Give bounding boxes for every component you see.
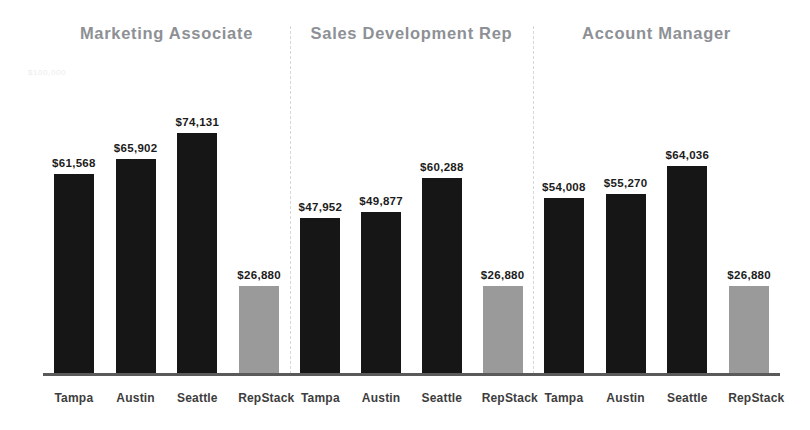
category-label: Seattle xyxy=(421,391,463,405)
bar-value-label: $26,880 xyxy=(237,269,281,281)
bar-value-label: $64,036 xyxy=(666,149,710,161)
bar-slot[interactable]: $47,952 xyxy=(299,60,341,374)
bar-rect[interactable] xyxy=(239,286,279,374)
bar-value-label: $47,952 xyxy=(299,201,343,213)
bar-slot[interactable]: $65,902 xyxy=(115,60,157,374)
bar-value-label: $55,270 xyxy=(604,177,648,189)
x-axis-categories: TampaAustinSeattleRepStack xyxy=(290,388,533,408)
bar-slot[interactable]: $26,880 xyxy=(482,60,524,374)
category-label: Tampa xyxy=(53,391,95,405)
bar-value-label: $26,880 xyxy=(481,269,525,281)
bar-slot[interactable]: $55,270 xyxy=(605,60,647,374)
bar-rect[interactable] xyxy=(483,286,523,374)
bar-rect[interactable] xyxy=(177,133,217,374)
bar-value-label: $26,880 xyxy=(727,269,771,281)
bar-rect[interactable] xyxy=(300,218,340,374)
x-axis-categories: TampaAustinSeattleRepStack xyxy=(533,388,780,408)
panel-title-account-manager: Account Manager xyxy=(533,24,780,43)
bar-slot[interactable]: $61,568 xyxy=(53,60,95,374)
panel-sales-development-rep: $47,952$49,877$60,288$26,880 xyxy=(290,60,533,374)
category-label: Austin xyxy=(605,391,647,405)
bar-value-label: $61,568 xyxy=(52,157,96,169)
category-label: Austin xyxy=(360,391,402,405)
bar-rect[interactable] xyxy=(422,178,462,374)
bar-rect[interactable] xyxy=(667,166,707,374)
category-label: Tampa xyxy=(299,391,341,405)
bar-group: $61,568$65,902$74,131$26,880 xyxy=(43,60,290,374)
category-label: Seattle xyxy=(176,391,218,405)
category-label: RepStack xyxy=(728,391,770,405)
bar-rect[interactable] xyxy=(544,198,584,374)
bar-slot[interactable]: $26,880 xyxy=(728,60,770,374)
bar-value-label: $74,131 xyxy=(176,116,220,128)
category-label: RepStack xyxy=(482,391,524,405)
bar-slot[interactable]: $54,008 xyxy=(543,60,585,374)
bar-group: $47,952$49,877$60,288$26,880 xyxy=(290,60,533,374)
category-label: Tampa xyxy=(543,391,585,405)
panel-title-sales-development-rep: Sales Development Rep xyxy=(290,24,533,43)
panel-account-manager: $54,008$55,270$64,036$26,880 xyxy=(533,60,780,374)
category-label: Austin xyxy=(115,391,157,405)
grouped-bar-chart: $100,000 Marketing Associate Sales Devel… xyxy=(0,0,810,430)
x-axis-line xyxy=(43,373,780,376)
bar-value-label: $60,288 xyxy=(420,161,464,173)
bar-value-label: $49,877 xyxy=(359,195,403,207)
bar-slot[interactable]: $60,288 xyxy=(421,60,463,374)
bar-value-label: $65,902 xyxy=(114,142,158,154)
bar-slot[interactable]: $26,880 xyxy=(238,60,280,374)
bar-rect[interactable] xyxy=(54,174,94,374)
category-label: Seattle xyxy=(666,391,708,405)
bar-value-label: $54,008 xyxy=(542,181,586,193)
bar-rect[interactable] xyxy=(361,212,401,374)
bar-slot[interactable]: $49,877 xyxy=(360,60,402,374)
bar-rect[interactable] xyxy=(116,159,156,374)
x-axis-categories: TampaAustinSeattleRepStack xyxy=(43,388,290,408)
bar-rect[interactable] xyxy=(729,286,769,374)
bar-slot[interactable]: $74,131 xyxy=(176,60,218,374)
panel-marketing-associate: $61,568$65,902$74,131$26,880 xyxy=(43,60,290,374)
panel-title-marketing-associate: Marketing Associate xyxy=(43,24,290,43)
bar-group: $54,008$55,270$64,036$26,880 xyxy=(533,60,780,374)
bar-slot[interactable]: $64,036 xyxy=(666,60,708,374)
category-label: RepStack xyxy=(238,391,280,405)
bar-rect[interactable] xyxy=(606,194,646,374)
